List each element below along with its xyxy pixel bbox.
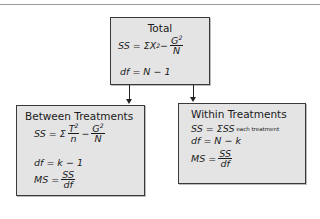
arrowhead-within	[190, 97, 196, 102]
total-box: Total SS = ΣX2 − G2 N df = N − 1	[110, 17, 210, 85]
arrow-to-between	[129, 85, 130, 100]
total-title: Total	[111, 22, 209, 34]
top-rule	[0, 4, 320, 5]
between-treatments-box: Between Treatments SS = Σ T2 n − G2 N df…	[16, 105, 145, 196]
total-df-formula: df = N − 1	[120, 66, 171, 77]
between-df-formula: df = k − 1	[34, 157, 83, 168]
g2-over-n: G2 N	[170, 36, 183, 55]
within-treatments-box: Within Treatments SS = ΣSSeach treatment…	[178, 103, 306, 184]
arrowhead-between	[126, 99, 132, 104]
within-ss-formula: SS = ΣSSeach treatment	[191, 123, 279, 134]
within-df-formula: df = N − k	[191, 135, 241, 146]
within-ms-formula: MS = SS df	[191, 149, 234, 168]
within-title: Within Treatments	[191, 108, 287, 120]
total-ss-formula: SS = ΣX2 − G2 N	[118, 36, 185, 55]
between-ms-formula: MS = SS df	[34, 170, 77, 189]
between-title: Between Treatments	[25, 110, 133, 122]
between-ss-formula: SS = Σ T2 n − G2 N	[34, 124, 107, 143]
